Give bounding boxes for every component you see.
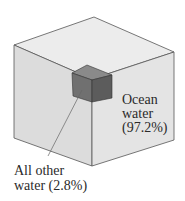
water-distribution-diagram: Ocean water (97.2%) All other water (2.8… bbox=[0, 0, 185, 201]
small-cube-right-face bbox=[92, 75, 112, 102]
ocean-label-line1: Ocean bbox=[122, 92, 158, 107]
other-label-line1: All other bbox=[14, 163, 64, 178]
other-label-line2: water (2.8%) bbox=[14, 178, 87, 194]
ocean-label-line2: water bbox=[122, 106, 153, 121]
ocean-label-line3: (97.2%) bbox=[122, 120, 168, 136]
